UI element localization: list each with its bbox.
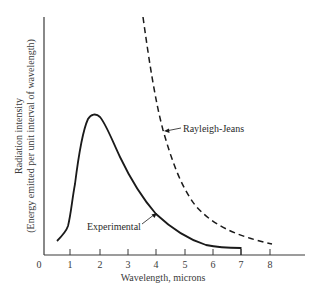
y-axis-title-line2: (Energy emitted per unit interval of wav… [25,39,37,233]
tick-label-8: 8 [268,259,273,270]
tick-label-1: 1 [68,259,73,270]
experimental-label: Experimental [87,221,141,232]
tick-label-6: 6 [211,259,216,270]
tick-label-2: 2 [98,259,103,270]
tick-label-5: 5 [183,259,188,270]
tick-label-7: 7 [239,259,244,270]
y-axis-title-line1: Radiation intensity [13,98,24,174]
experimental-curve [57,115,241,248]
chart: 0 1 2 3 4 5 6 7 8 Wavelength, microns Ra… [0,0,321,292]
x-axis-title: Wavelength, microns [121,272,206,283]
x-tick-labels: 0 1 2 3 4 5 6 7 8 [37,259,273,270]
tick-label-3: 3 [126,259,131,270]
tick-label-4: 4 [154,259,159,270]
rayleigh-jeans-arrowhead [164,129,170,134]
x-ticks [70,249,270,255]
experimental-arrowhead [152,213,158,218]
tick-label-0: 0 [37,259,42,270]
y-axis-title: Radiation intensity (Energy emitted per … [13,39,37,233]
rayleigh-jeans-label: Rayleigh-Jeans [183,123,244,134]
